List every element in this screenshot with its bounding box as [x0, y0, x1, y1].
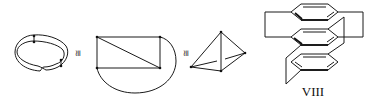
- rectangle-diagonal: [97, 37, 160, 68]
- stacked-rings-figure: [265, 4, 363, 84]
- graph-vertex: [159, 36, 162, 39]
- rectangle-outer-arc: [97, 37, 176, 93]
- bridge-left-top: [265, 12, 291, 37]
- congruent-symbol-1: ≅: [73, 49, 83, 57]
- tetra-vertex: [220, 31, 223, 34]
- tetra-edge: [221, 53, 245, 71]
- tetrahedron-figure: [190, 31, 247, 73]
- graph-vertex: [96, 67, 99, 70]
- band-vertex: [33, 35, 36, 38]
- compound-label: VIII: [302, 84, 324, 99]
- tetra-vertex: [244, 52, 247, 55]
- tetra-hidden-edge: [225, 53, 245, 59]
- figure-canvas: ≅ ≅: [0, 0, 379, 104]
- band-vertex: [60, 59, 63, 62]
- congruent-symbol-2: ≅: [181, 49, 191, 57]
- band-vertex: [60, 65, 63, 68]
- rectangle-graph-figure: [96, 36, 176, 93]
- band-inner-edge: [17, 41, 64, 67]
- bottom-ring: [291, 54, 338, 70]
- tetra-edge: [191, 32, 221, 67]
- twisted-band-figure: [15, 35, 68, 71]
- tetra-edge: [221, 32, 245, 53]
- tetra-vertex: [220, 70, 223, 73]
- graph-vertex: [159, 67, 162, 70]
- bridge-right-top: [338, 12, 363, 37]
- middle-ring: [291, 29, 338, 45]
- tetra-edge: [191, 67, 221, 71]
- tetra-vertex: [190, 66, 193, 69]
- graph-vertex: [96, 36, 99, 39]
- band-vertex: [33, 41, 36, 44]
- top-ring: [291, 4, 338, 20]
